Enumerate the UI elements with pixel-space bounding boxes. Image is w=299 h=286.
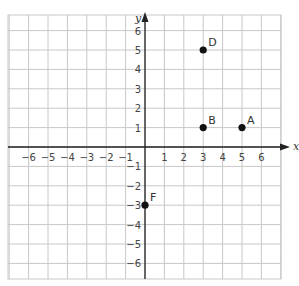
x-tick-label: −3 <box>79 152 94 163</box>
x-axis-arrow-icon <box>280 144 290 151</box>
y-tick-label: 3 <box>135 84 141 95</box>
point-label-b: B <box>208 114 216 127</box>
data-points: ABDF <box>141 36 255 209</box>
x-tick-label: −2 <box>99 152 114 163</box>
x-tick-label: 5 <box>239 152 245 163</box>
y-tick-label: −5 <box>126 239 141 250</box>
x-tick-label: 4 <box>219 152 225 163</box>
x-tick-label: −6 <box>21 152 36 163</box>
point-d <box>200 46 207 53</box>
y-tick-label: −1 <box>126 161 141 172</box>
y-tick-label: 1 <box>135 123 141 134</box>
x-axis-label: x <box>293 140 299 153</box>
y-tick-label: −3 <box>126 200 141 211</box>
axes: xy <box>8 12 299 279</box>
x-tick-label: 6 <box>258 152 264 163</box>
y-axis-arrow-icon <box>142 12 149 22</box>
y-tick-label: 6 <box>135 26 141 37</box>
coordinate-plane: xy −6−5−4−3−2−1123456654321−1−2−3−4−5−6 … <box>0 0 299 286</box>
x-tick-label: 3 <box>200 152 206 163</box>
x-tick-label: 2 <box>181 152 187 163</box>
y-tick-label: 5 <box>135 45 141 56</box>
point-label-a: A <box>247 114 255 127</box>
point-label-f: F <box>150 191 156 204</box>
y-axis-label: y <box>134 12 142 25</box>
point-b <box>200 124 207 131</box>
point-label-d: D <box>208 36 216 49</box>
y-tick-label: −4 <box>126 220 141 231</box>
y-tick-label: 2 <box>135 103 141 114</box>
x-tick-label: 1 <box>161 152 167 163</box>
y-tick-label: −2 <box>126 181 141 192</box>
y-tick-label: 4 <box>135 64 141 75</box>
point-f <box>141 202 148 209</box>
x-tick-label: −4 <box>60 152 75 163</box>
point-a <box>238 124 245 131</box>
y-tick-label: −6 <box>126 258 141 269</box>
x-tick-label: −5 <box>41 152 56 163</box>
